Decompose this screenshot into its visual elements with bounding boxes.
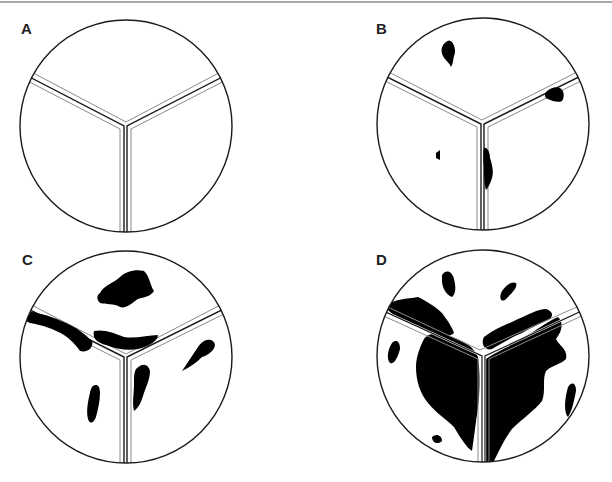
panel-d: D xyxy=(306,241,612,482)
corner-diagram xyxy=(0,241,306,482)
panel-a: A xyxy=(0,0,306,241)
view-circle xyxy=(20,20,232,232)
panel-b: B xyxy=(306,0,612,241)
corner-diagram xyxy=(0,0,306,241)
corner-diagram xyxy=(306,0,612,241)
seams xyxy=(20,66,232,240)
corner-diagram xyxy=(306,241,612,482)
view-circle xyxy=(377,18,589,230)
deposit-spots xyxy=(436,41,564,191)
panel-c: C xyxy=(0,241,306,482)
